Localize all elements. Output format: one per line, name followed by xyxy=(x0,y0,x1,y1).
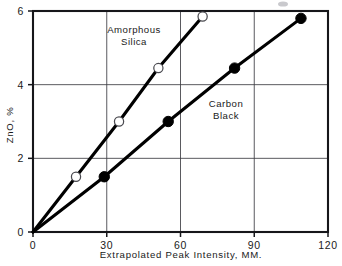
data-point xyxy=(114,117,123,126)
xray-calibration-chart: 0306090120 0246 Extrapolated Peak Intens… xyxy=(0,0,342,266)
data-point xyxy=(99,172,109,182)
chart-background xyxy=(0,0,342,266)
y-tick-label-2: 2 xyxy=(18,152,24,164)
data-point xyxy=(198,12,207,21)
amorphous-silica-label-line1: Amorphous xyxy=(107,24,161,35)
data-point xyxy=(296,13,306,23)
annotation-carbon-black: Carbon Black xyxy=(209,98,243,121)
data-point xyxy=(163,116,173,126)
y-tick-label-4: 4 xyxy=(18,79,24,91)
y-axis-title: ZnO, % xyxy=(4,107,15,144)
x-axis-title: Extrapolated Peak Intensity, MM. xyxy=(100,249,262,260)
scan-artifact xyxy=(278,1,288,6)
carbon-black-label-line1: Carbon xyxy=(209,98,243,109)
x-tick-label-0: 0 xyxy=(30,239,36,251)
amorphous-silica-label-line2: Silica xyxy=(121,36,147,47)
x-tick-label-120: 120 xyxy=(318,239,337,251)
carbon-black-label-line2: Black xyxy=(213,110,239,121)
data-point xyxy=(71,172,80,181)
y-tick-label-0: 0 xyxy=(18,226,24,238)
data-point xyxy=(154,63,163,72)
data-point xyxy=(229,63,239,73)
y-tick-label-6: 6 xyxy=(18,5,24,17)
